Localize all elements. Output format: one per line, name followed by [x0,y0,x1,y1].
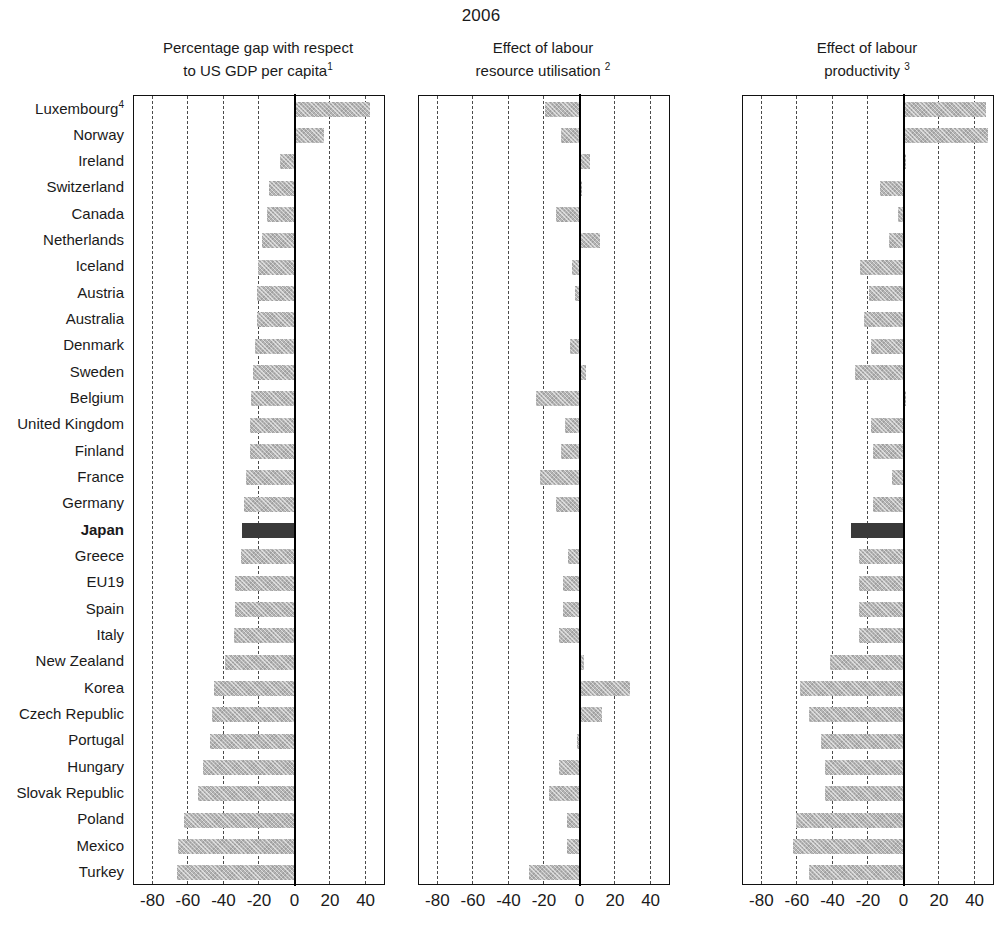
bar-row [743,312,993,327]
bar-row [419,602,669,617]
bar-portugal [210,734,294,749]
panel-title-line2: resource utilisation [476,62,601,79]
country-label-france: France [77,469,124,484]
bar-iceland [258,260,294,275]
x-tick-label--40: -40 [496,891,521,911]
bar-row [743,128,993,143]
x-tick-label--20: -20 [247,891,272,911]
bar-italy [859,628,903,643]
bar-luxembourg [545,102,579,117]
country-label-turkey: Turkey [79,864,124,879]
bar-united-kingdom [565,418,579,433]
bar-sweden [855,365,903,380]
bar-australia [864,312,903,327]
bar-switzerland [269,181,294,196]
bar-row [743,760,993,775]
country-label-eu19: EU19 [86,574,124,589]
bar-row [743,576,993,591]
x-tick-label--60: -60 [176,891,201,911]
country-label-mexico: Mexico [76,838,124,853]
bar-eu19 [859,576,903,591]
bar-row [419,865,669,880]
bar-row [743,207,993,222]
bar-canada [267,207,294,222]
bar-czech-republic [579,707,602,722]
bar-row [743,786,993,801]
x-tick-label-40: 40 [356,891,375,911]
bar-hungary [559,760,579,775]
country-label-iceland: Iceland [76,258,124,273]
bar-row [134,786,384,801]
bar-france [540,470,579,485]
bar-new-zealand [225,655,294,670]
bar-row [743,865,993,880]
country-label-korea: Korea [84,680,124,695]
bar-row [134,734,384,749]
bar-greece [241,549,294,564]
bar-row [419,549,669,564]
bar-germany [556,497,579,512]
country-label-germany: Germany [62,495,124,510]
bar-eu19 [235,576,294,591]
bar-row [134,444,384,459]
country-label-netherlands: Netherlands [43,232,124,247]
bar-denmark [871,339,903,354]
bar-row [419,707,669,722]
country-label-denmark: Denmark [63,337,124,352]
bar-row [419,128,669,143]
zero-axis-line [903,94,905,886]
bar-mexico [178,839,294,854]
bar-germany [873,497,903,512]
bar-row [743,102,993,117]
bar-united-kingdom [250,418,294,433]
country-label-italy: Italy [96,627,124,642]
country-label-czech-republic: Czech Republic [19,706,124,721]
bar-poland [567,813,579,828]
bar-row [743,365,993,380]
bar-denmark [255,339,294,354]
bar-japan [851,523,903,538]
bar-korea [579,681,631,696]
bar-finland [873,444,903,459]
bar-austria [257,286,294,301]
bar-turkey [177,865,294,880]
bar-row [419,312,669,327]
bar-row [134,549,384,564]
bar-iceland [572,260,579,275]
bar-row [134,154,384,169]
panel-title-line2: productivity [824,62,900,79]
chart-year-title: 2006 [0,6,962,26]
bar-row [743,418,993,433]
bar-row [134,102,384,117]
bar-greece [859,549,903,564]
bar-germany [244,497,294,512]
bar-row [134,260,384,275]
bar-luxembourg [294,102,370,117]
country-label-switzerland: Switzerland [46,179,124,194]
x-axis-ticks-labour-resource-utilisation: -80-60-40-2002040 [418,891,670,915]
country-label-poland: Poland [77,811,124,826]
bar-row [743,628,993,643]
country-label-japan: Japan [81,522,124,537]
bar-row [419,102,669,117]
bar-iceland [860,260,903,275]
country-label-luxembourg: Luxembourg4 [35,100,124,116]
bar-row [134,312,384,327]
plot-area-labour-resource-utilisation [418,95,670,885]
country-label-spain: Spain [86,601,124,616]
bar-row [743,602,993,617]
bar-switzerland [880,181,903,196]
bar-row [134,813,384,828]
bar-row [419,181,669,196]
plot-area-gap [133,95,385,885]
bar-belgium [536,391,579,406]
bar-row [134,418,384,433]
bar-hungary [825,760,903,775]
bar-row [134,128,384,143]
bar-row [743,233,993,248]
panel-title-line1: Effect of labour [667,38,998,57]
bar-rows [743,96,993,884]
bar-row [134,760,384,775]
country-label-text: Luxembourg [35,100,118,117]
